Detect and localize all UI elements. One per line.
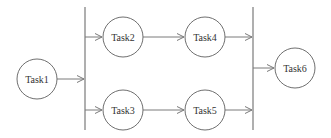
node-task5: Task5: [185, 90, 225, 130]
task-diagram: Task1 Task2 Task3 Task4 Task5 Task6: [0, 0, 331, 138]
node-label: Task5: [193, 105, 217, 116]
node-label: Task6: [283, 63, 307, 74]
node-label: Task1: [25, 74, 49, 85]
node-task1: Task1: [17, 59, 57, 99]
node-label: Task3: [111, 105, 135, 116]
node-task4: Task4: [185, 17, 225, 57]
node-task3: Task3: [103, 90, 143, 130]
node-label: Task2: [111, 32, 135, 43]
node-label: Task4: [193, 32, 217, 43]
node-task6: Task6: [275, 48, 315, 88]
node-task2: Task2: [103, 17, 143, 57]
